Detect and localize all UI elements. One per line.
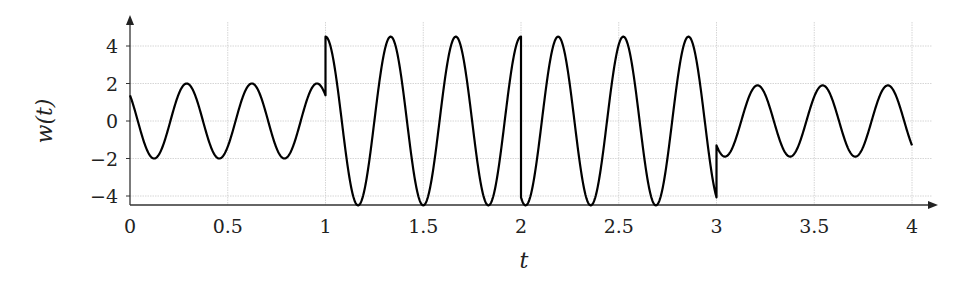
x-tick-label: 1.5 — [408, 215, 438, 237]
axes — [126, 15, 938, 209]
y-tick-label: −4 — [90, 185, 118, 207]
x-axis-label: t — [520, 248, 529, 273]
y-tick-label: −2 — [90, 148, 118, 170]
y-tick-labels: −4−2024 — [90, 35, 118, 207]
y-axis-label: w(t) — [32, 99, 57, 144]
x-tick-label: 3.5 — [799, 215, 829, 237]
y-tick-label: 4 — [106, 35, 118, 57]
x-axis-arrow-icon — [928, 201, 938, 209]
y-tick-label: 2 — [106, 73, 118, 95]
x-tick-label: 0 — [124, 215, 136, 237]
x-tick-label: 3 — [710, 215, 722, 237]
series-line-w — [130, 37, 912, 206]
x-tick-label: 2 — [515, 215, 527, 237]
x-tick-label: 4 — [906, 215, 918, 237]
grid-lines — [126, 22, 932, 205]
x-tick-label: 1 — [319, 215, 331, 237]
x-tick-labels: 00.511.522.533.54 — [124, 215, 918, 237]
y-axis-arrow-icon — [126, 15, 134, 25]
line-chart: 00.511.522.533.54 −4−2024 t w(t) — [0, 0, 960, 281]
x-tick-label: 0.5 — [213, 215, 243, 237]
x-tick-label: 2.5 — [604, 215, 634, 237]
y-tick-label: 0 — [106, 110, 118, 132]
